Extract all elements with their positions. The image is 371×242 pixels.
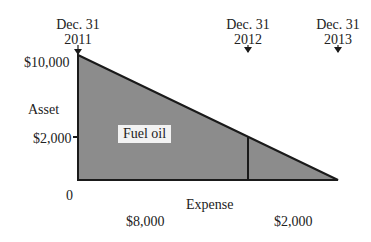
- region-label: Fuel oil: [118, 125, 171, 143]
- marker-2013: Dec. 31 2013: [308, 17, 368, 47]
- y-tick-2000: $2,000: [33, 131, 72, 146]
- x-axis-label: Expense: [186, 197, 233, 212]
- marker-2013-line1: Dec. 31: [308, 17, 368, 32]
- marker-2011-line1: Dec. 31: [48, 17, 108, 32]
- y-tick-zero: 0: [66, 188, 73, 203]
- asset-area: [78, 55, 338, 180]
- marker-2011-line2: 2011: [48, 32, 108, 47]
- marker-2012-line2: 2012: [218, 32, 278, 47]
- marker-2012: Dec. 31 2012: [218, 17, 278, 47]
- expense-2013: $2,000: [274, 214, 313, 229]
- y-tick-10000: $10,000: [24, 55, 70, 70]
- y-axis-label: Asset: [28, 102, 59, 117]
- expense-2012: $8,000: [126, 214, 165, 229]
- marker-2013-line2: 2013: [308, 32, 368, 47]
- marker-2012-line1: Dec. 31: [218, 17, 278, 32]
- marker-2011: Dec. 31 2011: [48, 17, 108, 47]
